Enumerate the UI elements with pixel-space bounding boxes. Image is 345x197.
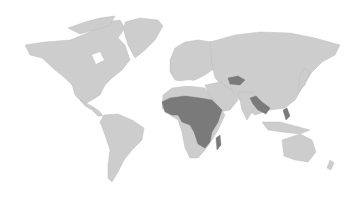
philippines-highlight [283, 108, 290, 120]
central-america [80, 100, 103, 116]
new-zealand [327, 160, 334, 170]
madagascar-highlight [216, 135, 221, 150]
world-map [0, 0, 345, 197]
mediterranean [172, 80, 205, 86]
greenland [124, 18, 163, 58]
indonesia [262, 122, 310, 134]
australia [282, 134, 316, 162]
south-america [100, 114, 144, 182]
